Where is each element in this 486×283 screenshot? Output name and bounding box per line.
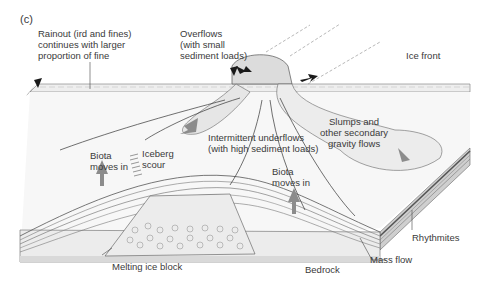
melting-ice-block-label: Melting ice block xyxy=(112,261,182,272)
bedrock-label: Bedrock xyxy=(305,264,340,275)
biota-left-label: Biota moves in xyxy=(90,150,128,172)
rainout-label: Rainout (ird and fines) continues with l… xyxy=(38,28,131,61)
iceberg-scour-label: Iceberg scour xyxy=(142,148,174,170)
intermittent-underflows-label: Intermittent underflows (with high sedim… xyxy=(208,132,318,154)
rhythmites-label: Rhythmites xyxy=(412,232,460,243)
glacial-lake-diagram: (c) Rainout (ird and fines) continues wi… xyxy=(0,0,486,283)
biota-right-label: Biota moves in xyxy=(272,166,310,188)
ice-front-label: Ice front xyxy=(406,50,440,61)
mass-flow-label: Mass flow xyxy=(370,254,412,265)
slumps-label: Slumps and other secondary gravity flows xyxy=(320,116,388,149)
overflows-label: Overflows (with small sediment loads) xyxy=(180,28,247,61)
panel-label: (c) xyxy=(20,14,33,25)
